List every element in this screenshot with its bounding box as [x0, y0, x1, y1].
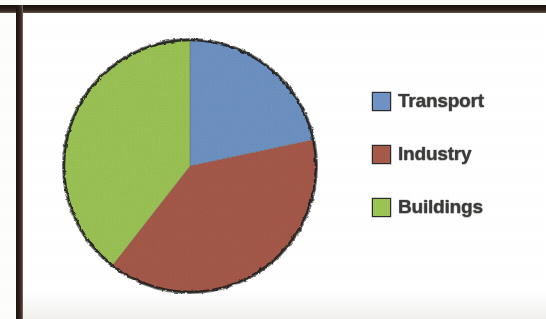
- legend-item-industry[interactable]: Industry: [372, 141, 532, 167]
- legend-label-transport: Transport: [398, 90, 484, 112]
- legend-swatch-industry: [372, 145, 391, 164]
- page-border-top: [0, 5, 546, 13]
- legend-item-transport[interactable]: Transport: [372, 88, 532, 114]
- page-bottom-edge: [23, 292, 546, 319]
- legend-label-buildings: Buildings: [398, 196, 483, 218]
- page-border-left: [16, 5, 23, 319]
- pie-chart-svg: [62, 38, 318, 294]
- chart-legend: Transport Industry Buildings: [372, 88, 532, 247]
- legend-swatch-buildings: [372, 198, 391, 217]
- legend-item-buildings[interactable]: Buildings: [372, 194, 532, 220]
- scanned-chart-page: Transport Industry Buildings: [0, 0, 546, 319]
- legend-swatch-transport: [372, 92, 391, 111]
- pie-chart: [62, 38, 318, 294]
- legend-label-industry: Industry: [398, 143, 471, 165]
